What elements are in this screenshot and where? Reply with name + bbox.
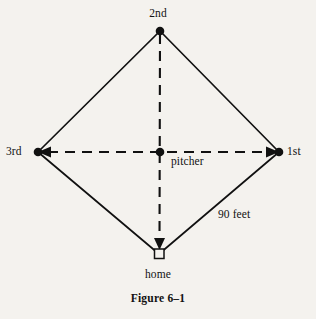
edge-third-to-second: [38, 31, 160, 152]
baseline-distance-label: 90 feet: [218, 209, 250, 221]
first-base-dot: [275, 148, 284, 157]
figure-caption: Figure 6–1: [0, 292, 316, 304]
second-base-dot: [156, 27, 165, 36]
baseball-diamond-figure: 2nd 3rd 1st pitcher home 90 feet Figure …: [0, 0, 316, 319]
pitcher-label: pitcher: [171, 156, 204, 168]
dashed-line-vertical: [160, 34, 161, 243]
second-base-label: 2nd: [0, 8, 316, 20]
edge-second-to-first: [160, 31, 279, 152]
edge-home-to-third: [38, 152, 159, 254]
diamond-outline: [38, 31, 279, 254]
first-base-label: 1st: [287, 146, 301, 158]
pitcher-mound-dot: [156, 148, 165, 157]
home-plate-square: [155, 249, 165, 259]
arrowhead-down-icon: [154, 238, 165, 250]
third-base-label: 3rd: [6, 146, 22, 158]
third-base-dot: [34, 148, 43, 157]
dashed-axis-second-home: [154, 34, 165, 250]
home-plate-label: home: [0, 269, 316, 281]
